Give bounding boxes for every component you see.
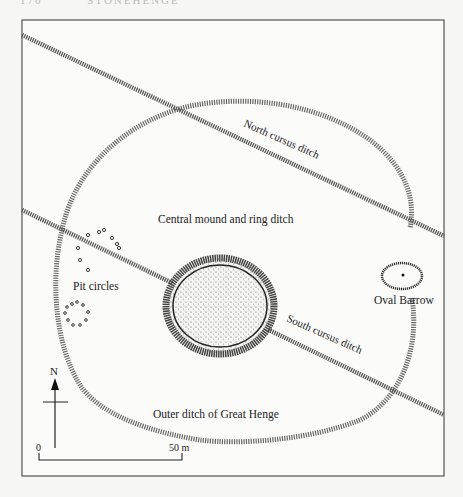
north-arrow-label: N	[50, 365, 58, 377]
label-outer-ditch: Outer ditch of Great Henge	[153, 408, 279, 421]
label-pit-circles: Pit circles	[73, 280, 119, 292]
label-oval-barrow: Oval Barrow	[374, 294, 434, 306]
scale-bar-start-label: 0	[36, 442, 41, 453]
scale-bar-end-label: 50 m	[169, 442, 190, 453]
site-plan-diagram: North cursus ditch South cursus ditch Ce…	[0, 0, 463, 497]
central-mound	[166, 258, 274, 354]
label-central-mound: Central mound and ring ditch	[158, 213, 294, 226]
